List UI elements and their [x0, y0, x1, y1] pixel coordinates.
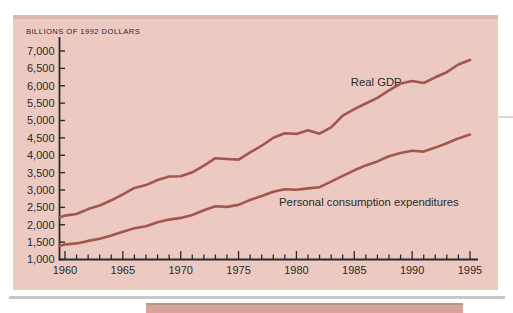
y-tick-label: 7,000 — [27, 45, 55, 57]
next-figure-caption-bar — [146, 303, 463, 313]
y-tick-label: 2,500 — [27, 201, 55, 213]
y-tick-label: 3,000 — [27, 184, 55, 196]
y-tick-label: 6,500 — [27, 62, 55, 74]
x-tick-label: 1990 — [400, 264, 424, 276]
y-tick-label: 1,500 — [27, 236, 55, 248]
x-tick-label: 1985 — [342, 264, 366, 276]
series-line-personal-consumption-expenditures — [60, 135, 471, 246]
y-tick-label: 4,000 — [27, 149, 55, 161]
series-label-real-gdp: Real GDP — [351, 76, 402, 88]
series-label-personal-consumption-expenditures: Personal consumption expenditures — [279, 196, 459, 208]
x-tick-label: 1975 — [226, 264, 250, 276]
y-tick-label: 5,000 — [27, 114, 55, 126]
x-tick-label: 1965 — [111, 264, 135, 276]
y-tick-label: 4,500 — [27, 132, 55, 144]
y-tick-label: 6,000 — [27, 80, 55, 92]
x-tick-label: 1980 — [284, 264, 308, 276]
y-tick-label: 2,000 — [27, 219, 55, 231]
y-tick-label: 1,000 — [27, 253, 55, 265]
x-tick-label: 1960 — [53, 264, 77, 276]
panel-shadow-rule — [9, 296, 505, 299]
y-tick-label: 5,500 — [27, 97, 55, 109]
gdp-pce-line-chart: 1,0001,5002,0002,5003,0003,5004,0004,500… — [13, 15, 498, 290]
x-tick-label: 1970 — [168, 264, 192, 276]
textbook-page: BILLIONS OF 1992 DOLLARS 1,0001,5002,000… — [0, 0, 513, 313]
page-artifact-line — [497, 116, 513, 118]
chart-panel: BILLIONS OF 1992 DOLLARS 1,0001,5002,000… — [13, 15, 498, 290]
y-tick-label: 3,500 — [27, 167, 55, 179]
x-tick-label: 1995 — [458, 264, 482, 276]
